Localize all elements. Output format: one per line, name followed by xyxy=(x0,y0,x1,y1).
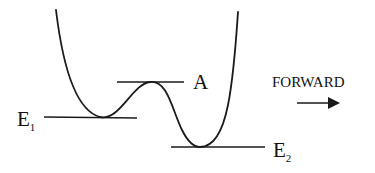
e1-label: E1 xyxy=(17,109,35,130)
e1-level-line xyxy=(44,117,137,118)
e2-label-main: E xyxy=(273,138,286,162)
e2-label-subscript: 2 xyxy=(286,152,292,164)
e1-label-subscript: 1 xyxy=(30,121,36,133)
forward-arrow-head-icon xyxy=(328,97,340,109)
e2-label: E2 xyxy=(273,140,291,161)
e1-label-main: E xyxy=(17,107,30,131)
barrier-label: A xyxy=(193,72,208,93)
potential-curve xyxy=(56,10,238,147)
forward-label: FORWARD xyxy=(272,75,345,90)
